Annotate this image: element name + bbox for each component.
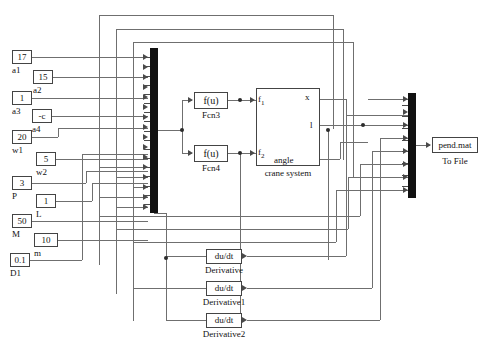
block-diagram-canvas: 17 a1 15 a2 1 a3 -c a4 20 w1 5 w2 3 P [0, 0, 486, 349]
wire-mux-left-out [158, 130, 182, 131]
arrow-a1 [143, 54, 148, 60]
feedback-wire-right-3 [353, 42, 354, 177]
const-label-L: L [36, 209, 42, 219]
const-block-L[interactable]: 1 [36, 194, 56, 208]
fcn-block-Fcn3[interactable]: f(u) [194, 92, 228, 109]
const-block-a1[interactable]: 17 [12, 50, 32, 64]
const-label-a2: a2 [33, 85, 42, 95]
const-block-M[interactable]: 50 [12, 214, 32, 228]
sink-block-to-file[interactable]: pend.mat [432, 137, 478, 153]
wire-m-a [58, 240, 148, 241]
feedback-wire-right-1 [333, 15, 334, 129]
const-block-a4[interactable]: -c [32, 109, 52, 123]
wire-deriv0-out [247, 256, 346, 257]
derivative-block-1[interactable]: du/dt [206, 281, 242, 296]
junction-fcn4-out [238, 151, 242, 155]
arrow-fb-5 [143, 204, 148, 210]
derivative-label-1: Derivative1 [191, 297, 257, 307]
arrow-fb-1 [143, 164, 148, 170]
wire-deriv2-in [166, 320, 206, 321]
derivative-block-2[interactable]: du/dt [206, 313, 242, 328]
plant-output-port-l: l [310, 120, 313, 130]
fcn-label-Fcn4: Fcn4 [194, 163, 228, 173]
derivative-expr-2: du/dt [215, 316, 234, 325]
wire-fb-rail-a-h [99, 216, 360, 217]
const-value-w1: 20 [18, 133, 27, 142]
const-label-a3: a3 [12, 106, 21, 116]
const-label-w1: w1 [12, 145, 23, 155]
wire-deriv0-up [346, 115, 347, 256]
feedback-wire-top-1 [99, 15, 333, 16]
wire-x-out-h2 [346, 115, 408, 116]
wire-L-a [56, 201, 92, 202]
arrow-w1 [143, 94, 148, 100]
fcn-expr-Fcn3: f(u) [204, 96, 219, 106]
arrow-w2 [143, 104, 148, 110]
arrow-P [143, 114, 148, 120]
const-label-m: m [34, 248, 41, 258]
wire-w1-c [58, 128, 148, 129]
wire-deriv2-out [247, 320, 380, 321]
arrow-rmux-1 [403, 96, 408, 102]
fcn-expr-Fcn4: f(u) [204, 149, 219, 159]
const-value-a1: 17 [18, 53, 27, 62]
plant-input-port-f1: f1 [258, 94, 265, 107]
arrow-D1 [143, 154, 148, 160]
wire-x-out-v [346, 99, 347, 115]
mux-left[interactable] [150, 48, 158, 213]
const-value-P: 3 [20, 179, 25, 188]
arrow-tofile-in [426, 142, 431, 148]
const-block-a2[interactable]: 15 [33, 70, 53, 84]
wire-P-c [86, 171, 148, 172]
arrow-a3 [143, 74, 148, 80]
const-block-P[interactable]: 3 [12, 176, 32, 190]
feedback-wire-top-2 [116, 29, 333, 30]
derivative-expr-1: du/dt [215, 284, 234, 293]
feedback-wire-top-2b [333, 29, 344, 30]
const-value-D1: 0.1 [14, 256, 25, 265]
wire-deriv1-up [372, 151, 373, 288]
plant-output-port-angle: angle [274, 155, 294, 165]
wire-rmux-in-7 [348, 177, 408, 178]
junction-fcn3-out [238, 98, 242, 102]
arrow-deriv0-out [242, 253, 247, 259]
const-block-w2[interactable]: 5 [36, 152, 56, 166]
derivative-label-0: Derivative [193, 265, 255, 275]
const-label-a1: a1 [12, 65, 21, 75]
wire-w1-b [58, 128, 59, 137]
const-block-D1[interactable]: 0.1 [10, 253, 30, 267]
wire-l-out-h2 [363, 125, 408, 126]
fcn-block-Fcn4[interactable]: f(u) [194, 145, 228, 162]
const-block-m[interactable]: 10 [34, 233, 58, 247]
wire-L-c [92, 183, 148, 184]
arrow-L [143, 124, 148, 130]
wire-mux-bottom-h [154, 213, 166, 214]
feedback-wire-right-2 [343, 29, 344, 160]
mux-right[interactable] [408, 93, 416, 198]
arrow-deriv2-out [242, 317, 247, 323]
const-label-w2: w2 [36, 167, 47, 177]
feedback-wire-left-1 [99, 15, 100, 265]
const-label-P: P [12, 191, 17, 201]
arrow-deriv1-out [242, 285, 247, 291]
const-value-a2: 15 [39, 73, 48, 82]
junction-mux-left-out [180, 128, 184, 132]
wire-a2 [53, 77, 148, 78]
wire-mux-bottom-v [166, 213, 167, 256]
wire-deriv1-in [133, 288, 206, 289]
arrow-fb-3 [143, 184, 148, 190]
wire-a1 [32, 57, 148, 58]
arrow-rmux-4 [403, 135, 408, 141]
wire-l-out-h [320, 125, 363, 126]
arrow-rmux-8 [403, 187, 408, 193]
const-label-a4: a4 [32, 124, 41, 134]
const-label-D1: D1 [10, 268, 21, 278]
feedback-wire-left-3 [133, 42, 134, 321]
sink-label-to-file: To File [428, 156, 482, 166]
wire-angle-down [328, 130, 329, 260]
const-block-w1[interactable]: 20 [12, 130, 32, 144]
sink-value-pend-mat: pend.mat [438, 141, 471, 150]
derivative-block-0[interactable]: du/dt [206, 249, 242, 264]
const-block-a3[interactable]: 1 [12, 91, 32, 105]
wire-w2 [56, 159, 148, 160]
